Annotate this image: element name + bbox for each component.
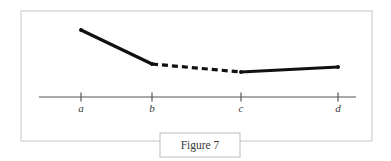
data-curve — [81, 30, 338, 72]
data-point-d — [336, 65, 340, 69]
axis-label-d: d — [335, 102, 341, 114]
axis-tick-labels: abcd — [78, 102, 341, 114]
axis-label-b: b — [149, 102, 155, 114]
curve-segment-c-to-d — [241, 67, 338, 72]
data-point-markers — [79, 28, 340, 74]
figure-container: abcd Figure 7 — [0, 0, 391, 161]
axis-label-c: c — [239, 102, 244, 114]
curve-segment-a-to-b — [81, 30, 152, 64]
figure-frame — [21, 11, 372, 141]
x-axis — [39, 93, 356, 102]
curve-segment-b-to-c — [152, 64, 241, 72]
data-point-a — [79, 28, 83, 32]
data-point-b — [150, 62, 154, 66]
axis-label-a: a — [78, 102, 84, 114]
caption-label: Figure 7 — [181, 139, 220, 152]
data-point-c — [239, 70, 243, 74]
figure-graphic: abcd Figure 7 — [0, 0, 391, 161]
figure-caption: Figure 7 — [160, 133, 240, 157]
frame-outline — [21, 11, 372, 141]
